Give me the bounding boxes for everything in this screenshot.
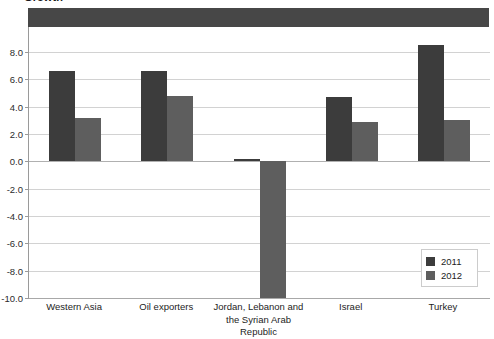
x-axis-label-line: Israel (339, 301, 362, 312)
y-axis-tick (25, 161, 29, 162)
x-axis-label-line: Jordan, Lebanon and (214, 301, 304, 312)
y-axis-tick-label: 6.0 (10, 74, 23, 85)
x-axis-label-line: Western Asia (46, 301, 102, 312)
x-axis-label-line: Oil exporters (139, 301, 193, 312)
y-axis-tick-label: -10.0 (1, 293, 23, 304)
bar-2012-4 (352, 122, 378, 162)
chart-title: Growth (24, 0, 63, 2)
x-axis-labels: Western AsiaOil exportersJordan, Lebanon… (28, 301, 489, 333)
y-axis-tick (25, 52, 29, 53)
gridline (29, 298, 490, 299)
y-axis-tick (25, 134, 29, 135)
bar-2011-4 (326, 97, 352, 161)
legend-swatch-icon-2011 (426, 257, 435, 266)
y-axis-tick-label: -8.0 (7, 266, 23, 277)
y-axis-tick (25, 189, 29, 190)
plot-area: 8.06.04.02.00.0-2.0-4.0-6.0-8.0-10.0 (28, 27, 489, 299)
chart-legend: 2011 2012 (421, 249, 478, 287)
legend-item-2011[interactable]: 2011 (426, 254, 472, 268)
y-axis-tick (25, 216, 29, 217)
bar-2012-1 (75, 118, 101, 162)
y-axis-tick-label: -6.0 (7, 238, 23, 249)
x-axis-label-line: the Syrian Arab Republic (226, 314, 291, 338)
bar-2012-2 (167, 96, 193, 162)
x-axis-label: Israel (305, 301, 397, 314)
bar-2011-5 (418, 45, 444, 161)
y-axis-tick-label: 8.0 (10, 47, 23, 58)
x-axis-label: Western Asia (28, 301, 120, 314)
y-axis-tick (25, 107, 29, 108)
y-axis-tick-label: 0.0 (10, 156, 23, 167)
bar-2012-5 (444, 120, 470, 161)
legend-item-2012[interactable]: 2012 (426, 268, 472, 282)
y-axis-tick (25, 271, 29, 272)
bar-2011-1 (49, 71, 75, 161)
y-axis-tick-label: 2.0 (10, 129, 23, 140)
y-axis-tick (25, 79, 29, 80)
legend-swatch-icon-2012 (426, 271, 435, 280)
y-axis-tick-label: -4.0 (7, 211, 23, 222)
x-axis-label: Jordan, Lebanon andthe Syrian Arab Repub… (212, 301, 304, 339)
bar-2012-3 (260, 161, 286, 298)
bar-2011-2 (141, 71, 167, 161)
bar-2011-3 (234, 159, 260, 162)
legend-label-2011: 2011 (441, 256, 461, 267)
x-axis-label: Turkey (397, 301, 489, 314)
header-band (28, 8, 489, 27)
y-axis-tick-label: 4.0 (10, 102, 23, 113)
y-axis-tick (25, 243, 29, 244)
y-axis-tick (25, 298, 29, 299)
x-axis-label-line: Turkey (429, 301, 458, 312)
x-axis-label: Oil exporters (120, 301, 212, 314)
y-axis-tick-label: -2.0 (7, 184, 23, 195)
legend-label-2012: 2012 (441, 270, 462, 281)
